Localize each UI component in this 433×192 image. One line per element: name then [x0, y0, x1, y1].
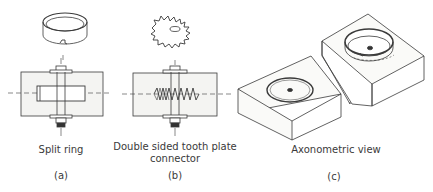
panel-a-caption: (a) [46, 170, 76, 182]
split-ring-joint-section [8, 58, 112, 136]
tooth-plate-joint-section [122, 60, 232, 136]
panel-a-label: Split ring [31, 144, 91, 156]
tooth-plate-icon [151, 16, 190, 48]
panel-b-label-line2: connector [112, 153, 238, 165]
panel-c-caption: (c) [319, 171, 349, 183]
panel-c-label: Axonometric view [286, 144, 386, 156]
split-ring-icon [43, 13, 87, 60]
panel-b-label-line1: Double sided tooth plate [112, 141, 238, 153]
panel-b-caption: (b) [160, 170, 190, 182]
axonometric-block-left [238, 56, 341, 142]
